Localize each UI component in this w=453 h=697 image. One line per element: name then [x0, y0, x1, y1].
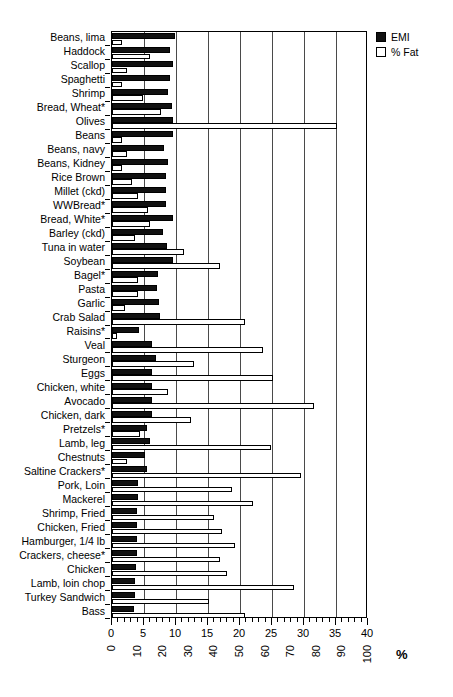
category-label: Chestnuts — [0, 451, 105, 463]
axis-tick — [175, 618, 176, 625]
category-label: Chicken, white — [0, 381, 105, 393]
category-tick — [105, 338, 110, 339]
axis-tick — [265, 618, 266, 622]
bar-row — [112, 465, 366, 480]
bar-row — [112, 353, 366, 368]
axis-tick — [284, 618, 285, 622]
bar-emi — [112, 103, 172, 109]
category-tick — [105, 422, 110, 423]
bar-row — [112, 312, 366, 327]
axis-tick — [111, 618, 112, 625]
axis-tick — [137, 618, 138, 622]
bar-fat — [112, 431, 140, 437]
axis-tick — [290, 618, 291, 622]
category-label: Barley (ckd) — [0, 227, 105, 239]
axis-tick — [188, 618, 189, 622]
fat-tick-label: 10 — [131, 645, 143, 657]
category-tick — [105, 618, 110, 619]
bar-fat — [112, 459, 127, 465]
axis-tick — [181, 618, 182, 622]
bar-emi — [112, 299, 159, 305]
category-tick — [105, 59, 110, 60]
bar-row — [112, 409, 366, 424]
bar-emi — [112, 397, 152, 403]
bar-emi — [112, 271, 158, 277]
category-label: Millet (ckd) — [0, 185, 105, 197]
bar-fat — [112, 165, 122, 171]
bar-row — [112, 102, 366, 117]
axis-tick — [201, 618, 202, 622]
category-tick — [105, 157, 110, 158]
bar-row — [112, 186, 366, 201]
bar-emi — [112, 522, 137, 528]
bar-row — [112, 591, 366, 606]
bar-fat — [112, 109, 161, 115]
category-label: Hamburger, 1/4 lb — [0, 535, 105, 547]
axis-tick — [277, 618, 278, 622]
category-label: Saltine Crackers* — [0, 465, 105, 477]
axis-tick — [130, 618, 131, 622]
emi-tick-label: 30 — [297, 627, 309, 640]
fat-tick-label: 0 — [105, 645, 117, 651]
category-tick — [105, 213, 110, 214]
emi-tick-label: 25 — [265, 627, 277, 640]
bar-emi — [112, 341, 152, 347]
bar-rows — [112, 32, 366, 617]
bar-emi — [112, 452, 145, 458]
bar-row — [112, 172, 366, 187]
category-label: Soybean — [0, 255, 105, 267]
fat-scale-labels: 0102030405060708090100 — [0, 645, 453, 677]
bar-emi — [112, 229, 163, 235]
axis-tick — [169, 618, 170, 622]
bar-emi — [112, 466, 147, 472]
bar-row — [112, 423, 366, 438]
bar-fat — [112, 333, 117, 339]
emi-tick-label: 5 — [140, 627, 146, 640]
bar-fat — [112, 571, 227, 577]
category-tick — [105, 283, 110, 284]
category-label: Tuna in water — [0, 241, 105, 253]
category-label: Garlic — [0, 297, 105, 309]
emi-scale-labels: 0510152025303540 — [0, 627, 453, 641]
bar-emi — [112, 89, 168, 95]
category-tick — [105, 576, 110, 577]
bar-fat — [112, 529, 222, 535]
bar-row — [112, 549, 366, 564]
legend-item-fat: % Fat — [376, 46, 418, 58]
category-label: Pork, Loin — [0, 479, 105, 491]
bar-emi — [112, 257, 173, 263]
category-label: Pretzels* — [0, 423, 105, 435]
axis-tick — [297, 618, 298, 622]
bar-emi — [112, 369, 152, 375]
bar-emi — [112, 383, 152, 389]
bar-row — [112, 130, 366, 145]
fat-tick-label: 90 — [335, 645, 347, 657]
bar-fat — [112, 417, 191, 423]
bar-fat — [112, 82, 122, 88]
bar-fat — [112, 249, 184, 255]
category-label: Olives — [0, 115, 105, 127]
axis-tick — [271, 618, 272, 625]
bar-emi — [112, 215, 173, 221]
axis-tick — [194, 618, 195, 622]
category-label: Beans, Kidney — [0, 157, 105, 169]
category-label: Sturgeon — [0, 353, 105, 365]
category-tick — [105, 269, 110, 270]
hollow-square-icon — [376, 47, 386, 57]
bar-emi — [112, 550, 137, 556]
category-label: Chicken — [0, 563, 105, 575]
bar-emi — [112, 61, 173, 67]
bar-fat — [112, 291, 138, 297]
category-tick — [105, 436, 110, 437]
bar-emi — [112, 33, 175, 39]
category-label: Bass — [0, 605, 105, 617]
bar-fat — [112, 319, 245, 325]
bar-fat — [112, 487, 232, 493]
axis-tick — [245, 618, 246, 622]
filled-square-icon — [376, 32, 386, 42]
category-label: Haddock — [0, 45, 105, 57]
axis-tick — [341, 618, 342, 622]
bar-emi — [112, 285, 157, 291]
bar-row — [112, 214, 366, 229]
category-tick — [105, 255, 110, 256]
